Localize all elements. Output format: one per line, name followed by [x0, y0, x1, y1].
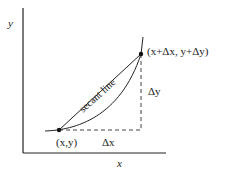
- point-end-label: (x+Δx, y+Δy): [147, 45, 209, 58]
- point-start: [57, 128, 61, 132]
- secant-line-diagram: y x secant line (x,y) (x+Δx, y+Δy) Δx Δy: [0, 0, 226, 173]
- secant-label: secant line: [77, 76, 118, 114]
- x-axis-label: x: [116, 157, 122, 169]
- delta-y-label: Δy: [148, 85, 161, 97]
- function-curve: [45, 37, 143, 131]
- y-axis-label: y: [7, 17, 13, 29]
- point-start-label: (x,y): [56, 136, 77, 149]
- delta-x-label: Δx: [102, 136, 115, 148]
- point-end: [139, 52, 143, 56]
